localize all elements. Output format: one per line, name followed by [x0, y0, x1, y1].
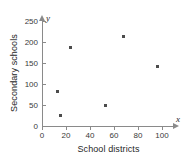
data-point: [56, 90, 59, 93]
x-tick-label: 60: [104, 131, 124, 140]
y-tick-label: 50: [16, 101, 38, 110]
y-tick-mark: [42, 63, 46, 64]
x-axis-variable-label: x: [176, 114, 180, 124]
x-axis-line: [42, 126, 175, 127]
y-tick-mark: [42, 126, 46, 127]
x-tick-mark: [114, 126, 115, 130]
y-axis-line: [42, 20, 43, 127]
y-tick-label: 0: [16, 122, 38, 131]
x-tick-label: 40: [80, 131, 100, 140]
data-point: [122, 35, 125, 38]
y-tick-mark: [42, 42, 46, 43]
x-tick-mark: [138, 126, 139, 130]
x-tick-label: 80: [128, 131, 148, 140]
data-point: [69, 46, 72, 49]
x-tick-label: 100: [152, 131, 172, 140]
y-tick-mark: [42, 21, 46, 22]
x-axis-title: School districts: [42, 144, 175, 154]
plot-area: x y 020406080100 050100150200250 School …: [0, 0, 190, 161]
y-tick-mark: [42, 105, 46, 106]
y-tick-label: 250: [16, 17, 38, 26]
y-axis-variable-label: y: [46, 13, 50, 23]
data-point: [59, 114, 62, 117]
y-tick-label: 200: [16, 38, 38, 47]
x-tick-mark: [90, 126, 91, 130]
x-tick-mark: [66, 126, 67, 130]
x-tick-label: 0: [32, 131, 52, 140]
y-tick-label: 150: [16, 59, 38, 68]
x-tick-label: 20: [56, 131, 76, 140]
y-tick-mark: [42, 84, 46, 85]
y-tick-label: 100: [16, 80, 38, 89]
scatter-plot-figure: x y 020406080100 050100150200250 School …: [0, 0, 190, 161]
y-axis-title: Secondary schools: [9, 18, 19, 128]
data-point: [104, 104, 107, 107]
x-tick-mark: [162, 126, 163, 130]
data-point: [156, 65, 159, 68]
